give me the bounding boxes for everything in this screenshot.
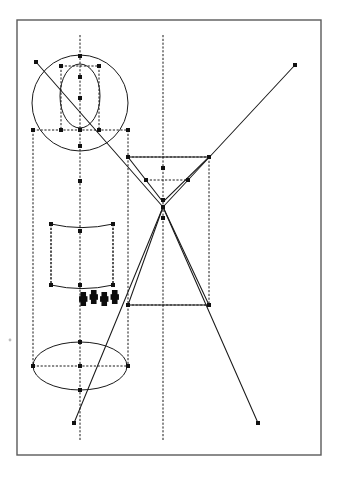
node-chord-left-outer bbox=[31, 128, 35, 132]
node-chord-center bbox=[78, 128, 82, 132]
node-barrel-bottom-center bbox=[78, 283, 82, 287]
node-upper-left-handle bbox=[59, 64, 63, 68]
node-ellipse-right bbox=[126, 364, 130, 368]
margin-speck-group bbox=[9, 339, 12, 342]
node-inner-chord-left bbox=[144, 178, 148, 182]
node-box-top-left bbox=[126, 155, 130, 159]
node-chord-right-inner bbox=[97, 128, 101, 132]
node-tri-apex-down bbox=[161, 198, 165, 202]
hatch-mark-vertical bbox=[91, 290, 97, 304]
node-barrel-top-center bbox=[78, 229, 82, 233]
node-ellipse-left bbox=[31, 364, 35, 368]
node-diagonal-start-upper-left bbox=[34, 60, 38, 64]
hatch-mark-vertical bbox=[101, 292, 107, 306]
node-circle-top bbox=[78, 75, 82, 79]
node-chord-left-inner bbox=[59, 128, 63, 132]
node-axis-mid-upper bbox=[78, 96, 82, 100]
node-top-apex bbox=[78, 54, 82, 58]
node-diagonal-end-bottom-right bbox=[256, 421, 260, 425]
left-margin-speck bbox=[9, 339, 12, 342]
node-barrel-top-left bbox=[49, 222, 53, 226]
page-frame bbox=[17, 20, 321, 455]
node-axis-upper-tri bbox=[161, 166, 165, 170]
node-upper-right-handle bbox=[97, 64, 101, 68]
node-circle-bottom bbox=[78, 179, 82, 183]
node-axis-below-cross bbox=[161, 216, 165, 220]
node-box-bottom-left bbox=[126, 303, 130, 307]
node-barrel-top-right bbox=[111, 222, 115, 226]
node-ellipse-top bbox=[78, 340, 82, 344]
node-diagonal-end-bottom-left bbox=[72, 421, 76, 425]
node-ellipse-center bbox=[78, 364, 82, 368]
drawing-canvas bbox=[0, 0, 338, 479]
node-barrel-bottom-left bbox=[49, 283, 53, 287]
node-crossing-center bbox=[161, 205, 165, 209]
hatch-mark-vertical bbox=[80, 292, 86, 306]
node-ellipse-bottom bbox=[78, 388, 82, 392]
node-chord-right-outer bbox=[126, 128, 130, 132]
node-barrel-bottom-right bbox=[111, 283, 115, 287]
node-diagonal-end-top-right bbox=[293, 63, 297, 67]
hatch-mark-vertical bbox=[112, 290, 118, 304]
node-box-top-right bbox=[207, 155, 211, 159]
node-lens-bottom bbox=[78, 144, 82, 148]
node-inner-chord-right bbox=[186, 178, 190, 182]
node-box-bottom-right bbox=[207, 303, 211, 307]
line-drawing-figure bbox=[0, 0, 338, 479]
